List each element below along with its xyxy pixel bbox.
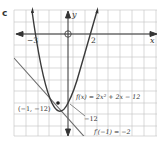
graph-figure: y x −3 2 f(x) = 2x² + 2x − 12 (−1, −12) … — [0, 0, 166, 144]
tangent-line — [14, 58, 98, 144]
function-label: f(x) = 2x² + 2x − 12 — [75, 93, 140, 101]
tangent-point — [56, 101, 60, 105]
point-label: (−1, −12) — [18, 105, 51, 113]
derivative-label: f′(−1) = −2 — [93, 128, 131, 136]
tick-neg3: −3 — [27, 36, 38, 45]
y-axis-label: y — [71, 10, 77, 19]
tick-2: 2 — [91, 36, 96, 45]
y-intercept-label: −12 — [84, 115, 98, 123]
x-axis-label: x — [150, 36, 155, 45]
